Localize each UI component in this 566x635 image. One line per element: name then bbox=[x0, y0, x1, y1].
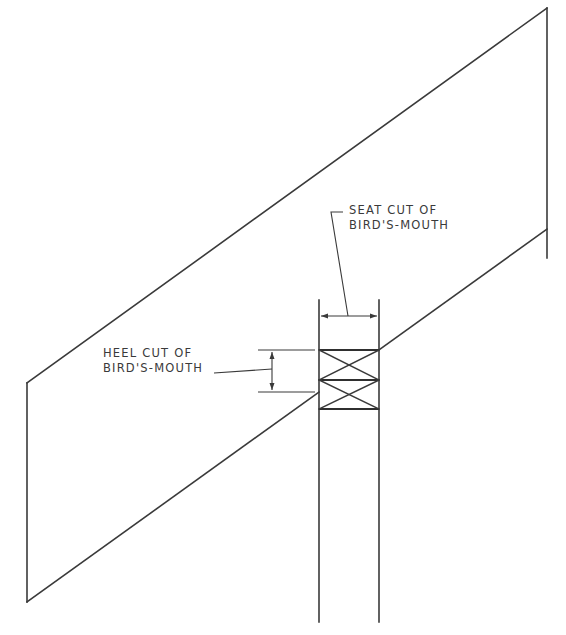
seat-cut-label: SEAT CUT OF BIRD'S-MOUTH bbox=[349, 203, 449, 233]
top-plates bbox=[319, 350, 379, 409]
arrow-right-icon bbox=[370, 314, 377, 319]
rafter bbox=[27, 8, 547, 602]
bird-mouth-diagram bbox=[0, 0, 566, 635]
heel-cut-label-line2: BIRD'S-MOUTH bbox=[103, 361, 203, 376]
seat-cut-label-line2: BIRD'S-MOUTH bbox=[349, 218, 449, 233]
heel-cut-dimension bbox=[214, 350, 315, 392]
heel-leader-line bbox=[214, 369, 272, 373]
rafter-top-edge bbox=[27, 8, 547, 383]
rafter-bottom-edge-lower bbox=[27, 392, 319, 602]
heel-cut-label: HEEL CUT OF BIRD'S-MOUTH bbox=[103, 346, 203, 376]
seat-cut-label-line1: SEAT CUT OF bbox=[349, 203, 449, 218]
arrow-left-icon bbox=[321, 314, 328, 319]
arrow-up-icon bbox=[270, 352, 275, 359]
arrow-down-icon bbox=[270, 383, 275, 390]
wall bbox=[319, 300, 379, 622]
heel-cut-label-line1: HEEL CUT OF bbox=[103, 346, 203, 361]
seat-leader-line bbox=[331, 212, 348, 316]
rafter-bottom-edge-upper bbox=[379, 229, 547, 350]
